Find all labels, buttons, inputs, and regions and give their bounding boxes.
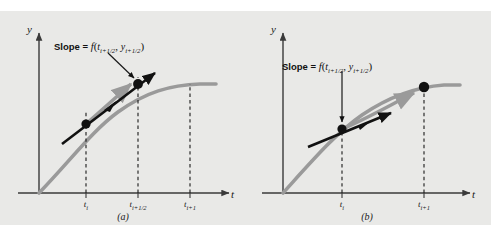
panel-a-point-tihalf: [133, 79, 143, 89]
panel-a-slope-arg1-sub: i+1/2: [100, 47, 115, 54]
panel-a-tick-label-ti1: ti+1: [184, 199, 196, 211]
panel-a-slope-arg2-sub: i+1/2: [125, 47, 140, 54]
panel-b-slope-prefix: Slope =: [282, 61, 319, 72]
panel-b-tick-label-ti1-sub: i+1: [421, 204, 430, 211]
panel-a-tick-label-ti1-sub: i+1: [187, 204, 196, 211]
panel-b-solution-curve: [283, 85, 460, 193]
panel-a-tick-label-tihalf: ti+1/2: [129, 199, 146, 211]
panel-b-tick-label-ti1: ti+1: [418, 199, 430, 211]
panel-b-slope-close-paren: ): [368, 60, 372, 72]
panel-a-slope-annotation: Slope = f(ti+1/2, yi+1/2): [54, 40, 144, 54]
panel-b-tick-label-ti: ti: [340, 199, 344, 211]
panel-a-tick-label-tihalf-sub: i+1/2: [132, 204, 147, 211]
panel-a: y t Slope = f(ti+1/2, yi+1/2) ti ti+1/2 …: [0, 11, 245, 225]
panel-a-tick-label-ti: ti: [84, 199, 88, 211]
panel-b-point-ti: [337, 124, 346, 133]
panel-b-full-step-arrow: [342, 93, 414, 129]
panel-a-slope-close-paren: ): [140, 40, 144, 52]
panel-b-slope-arg1-sub: i+1/2: [328, 67, 343, 74]
panel-b-slope-segment: [308, 113, 391, 147]
panel-b-point-ti1: [419, 82, 429, 92]
panel-b-y-axis-label: y: [271, 23, 276, 35]
panel-a-annotation-leader: [108, 53, 134, 78]
panel-b-slope-arg2-sub: i+1/2: [353, 67, 368, 74]
panel-b: y t Slope = f(ti+1/2, yi+1/2) ti ti+1 (b…: [246, 11, 491, 225]
panel-a-y-axis-label: y: [27, 23, 32, 35]
panel-b-tick-label-ti-sub: i: [342, 204, 344, 211]
panel-a-slope-prefix: Slope =: [54, 41, 91, 52]
panel-a-point-ti: [81, 119, 90, 128]
panel-a-tick-label-ti-sub: i: [86, 204, 88, 211]
panel-b-x-axis-label: t: [472, 188, 475, 200]
panel-b-slope-annotation: Slope = f(ti+1/2, yi+1/2): [282, 60, 372, 74]
panel-a-x-axis-label: t: [231, 188, 234, 200]
panel-b-graphic: [246, 11, 491, 225]
panel-a-caption: (a): [117, 211, 129, 222]
panel-b-caption: (b): [361, 211, 373, 222]
figure-root: y t Slope = f(ti+1/2, yi+1/2) ti ti+1/2 …: [0, 0, 491, 241]
